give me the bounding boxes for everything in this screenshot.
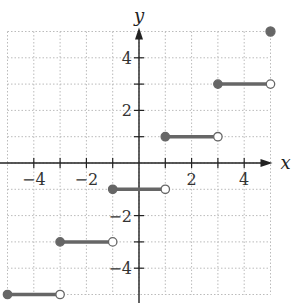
y-axis-label: y [133, 5, 145, 26]
x-tick-label: 2 [187, 170, 197, 189]
y-axis-arrow-icon [135, 28, 143, 40]
open-endpoint-icon [161, 185, 169, 193]
x-tick-label: −4 [22, 170, 46, 189]
plot-area: −4−22442−2−4xy [0, 0, 291, 303]
open-endpoint-icon [109, 238, 117, 246]
closed-endpoint-icon [109, 185, 117, 193]
open-endpoint-icon [214, 133, 222, 141]
y-tick-label: −2 [108, 207, 132, 226]
closed-endpoint-icon [161, 133, 169, 141]
closed-endpoint-icon [214, 80, 222, 88]
isolated-point-icon [266, 27, 275, 36]
y-tick-label: −4 [108, 259, 132, 278]
open-endpoint-icon [266, 80, 274, 88]
y-tick-label: 4 [122, 49, 132, 68]
step-function-chart: −4−22442−2−4xy [0, 0, 291, 303]
closed-endpoint-icon [3, 290, 11, 298]
x-tick-label: 4 [239, 170, 249, 189]
open-endpoint-icon [56, 290, 64, 298]
closed-endpoint-icon [56, 238, 64, 246]
x-axis-label: x [281, 152, 291, 173]
x-tick-label: −2 [75, 170, 99, 189]
y-tick-label: 2 [122, 101, 132, 120]
